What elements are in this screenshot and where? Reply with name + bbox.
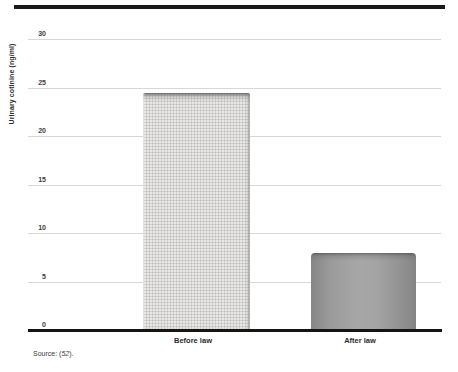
x-axis-line (28, 329, 442, 332)
source-text-suffix: ). (69, 350, 73, 357)
gridline-y-25 (28, 88, 441, 89)
source-note: Source: (52). (33, 350, 73, 357)
bar-before-law (143, 93, 250, 330)
figure-bar-chart: 051015202530Before lawAfter law Urinary … (0, 0, 458, 372)
y-tick-label-10: 10 (26, 223, 46, 232)
y-tick-label-5: 5 (26, 272, 46, 281)
bar-after-law (311, 253, 416, 330)
y-tick-label-0: 0 (26, 320, 46, 329)
y-tick-label-20: 20 (26, 126, 46, 135)
source-text: Source: ( (33, 350, 61, 357)
y-tick-label-30: 30 (26, 29, 46, 38)
top-rule-divider (14, 5, 445, 9)
gridline-y-30 (28, 39, 441, 40)
y-tick-label-25: 25 (26, 78, 46, 87)
y-axis-title: Urinary cotinine (ng/ml) (8, 44, 15, 125)
y-tick-label-15: 15 (26, 175, 46, 184)
category-label-after-law: After law (344, 336, 376, 345)
category-label-before-law: Before law (174, 336, 212, 345)
